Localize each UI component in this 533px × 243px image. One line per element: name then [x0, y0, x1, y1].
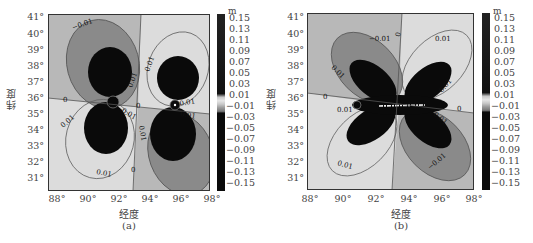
cbtick: −0.03 [491, 112, 520, 122]
svg-text:−0.01: −0.01 [369, 35, 390, 43]
ytick: 32° [280, 157, 304, 167]
svg-text:0.01: 0.01 [337, 106, 353, 114]
xtick: 92° [107, 194, 131, 204]
x-axis-label-a: 经度 [114, 206, 144, 221]
cbtick: 0.03 [494, 79, 515, 89]
ytick: 38° [20, 61, 44, 71]
cbtick: −0.09 [226, 145, 255, 155]
xtick: 98° [200, 194, 224, 204]
cbtick: 0.09 [494, 46, 515, 56]
colorbar-a [217, 14, 225, 191]
ytick: 41° [280, 12, 304, 22]
ytick: 41° [20, 12, 44, 22]
cbtick: 0.11 [494, 35, 515, 45]
cbtick: 0.15 [494, 13, 515, 23]
cbtick: −0.03 [226, 112, 255, 122]
xtick: 96° [169, 194, 193, 204]
cbtick: 0.01 [229, 90, 250, 100]
panel-label-b: (b) [386, 220, 416, 231]
cbtick: −0.07 [491, 134, 520, 144]
contour-map-b: −0.01 0 0.01 0.01 0.01 0 0 0.01 0.01 0.0… [307, 13, 474, 190]
xtick: 92° [364, 194, 388, 204]
panel-a: −0.01 0.01 0.01 0 0 0.01 0.01 0.01 0.01 … [0, 0, 265, 243]
ytick: 36° [20, 93, 44, 103]
cbtick: −0.07 [226, 134, 255, 144]
cbtick: 0.05 [494, 68, 515, 78]
ytick: 39° [20, 45, 44, 55]
ytick: 34° [280, 125, 304, 135]
cbtick: −0.11 [491, 156, 520, 166]
xtick: 94° [138, 194, 162, 204]
svg-text:0: 0 [63, 96, 67, 104]
cbtick: −0.01 [491, 101, 520, 111]
ytick: 31° [20, 173, 44, 183]
xtick: 96° [430, 194, 454, 204]
svg-text:0: 0 [457, 105, 461, 113]
ytick: 34° [20, 125, 44, 135]
cbtick: −0.01 [226, 101, 255, 111]
x-axis-label-b: 经度 [386, 206, 416, 221]
ytick: 39° [280, 45, 304, 55]
contour-map-a: −0.01 0.01 0.01 0 0 0.01 0.01 0.01 0.01 … [48, 14, 210, 191]
cbtick: 0.09 [229, 46, 250, 56]
ytick: 37° [280, 77, 304, 87]
cbtick: 0.05 [229, 68, 250, 78]
svg-text:0: 0 [323, 93, 327, 101]
panel-b: −0.01 0 0.01 0.01 0.01 0 0 0.01 0.01 0.0… [260, 0, 533, 243]
xtick: 94° [397, 194, 421, 204]
contour-plot-a-svg: −0.01 0.01 0.01 0 0 0.01 0.01 0.01 0.01 … [48, 14, 210, 191]
cbtick: 0.07 [229, 57, 250, 67]
cbtick: −0.05 [491, 123, 520, 133]
cbtick: −0.11 [226, 156, 255, 166]
xtick: 90° [331, 194, 355, 204]
xtick: 88° [45, 194, 69, 204]
cbtick: 0.01 [494, 90, 515, 100]
y-axis-label-b: 纬度 [264, 88, 279, 110]
xtick: 90° [76, 194, 100, 204]
cbtick: 0.03 [229, 79, 250, 89]
xtick: 88° [298, 194, 322, 204]
panel-label-a: (a) [114, 220, 144, 231]
cbtick: −0.09 [491, 145, 520, 155]
ytick: 36° [280, 93, 304, 103]
cbtick: −0.13 [491, 167, 520, 177]
ytick: 40° [280, 29, 304, 39]
cbtick: 0.13 [229, 24, 250, 34]
cbtick: −0.05 [226, 123, 255, 133]
ytick: 33° [20, 141, 44, 151]
svg-text:0: 0 [131, 166, 135, 174]
cbtick: 0.07 [494, 57, 515, 67]
svg-text:0.01: 0.01 [435, 35, 451, 43]
cbtick: −0.13 [226, 167, 255, 177]
ytick: 35° [20, 109, 44, 119]
ytick: 33° [280, 141, 304, 151]
ytick: 38° [280, 61, 304, 71]
ytick: 32° [20, 157, 44, 167]
ytick: 31° [280, 173, 304, 183]
ytick: 40° [20, 29, 44, 39]
xtick: 98° [462, 194, 486, 204]
ytick: 37° [20, 77, 44, 87]
cbtick: −0.15 [226, 178, 255, 188]
cbtick: 0.13 [494, 24, 515, 34]
contour-plot-b-svg: −0.01 0 0.01 0.01 0.01 0 0 0.01 0.01 0.0… [307, 13, 474, 190]
y-axis-label-a: 纬度 [4, 88, 19, 110]
cbtick: −0.15 [491, 178, 520, 188]
cbtick: 0.11 [229, 35, 250, 45]
cbtick: 0.15 [229, 13, 250, 23]
colorbar-b [482, 13, 490, 190]
ytick: 35° [280, 109, 304, 119]
svg-text:0: 0 [136, 102, 140, 110]
